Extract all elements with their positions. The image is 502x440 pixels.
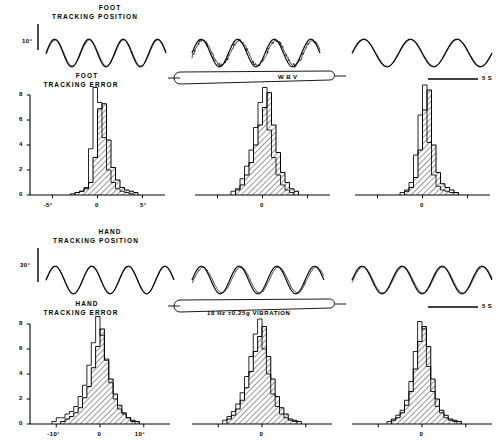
axis-tick-label: 0	[420, 202, 424, 208]
time-scale-label-bottom: 5 S	[482, 303, 492, 309]
hist-foot-error-during	[195, 88, 330, 199]
hist-foot-error-after	[355, 85, 490, 198]
axis-tick-label: 2	[19, 166, 23, 172]
plot-hand-position-before	[46, 266, 174, 294]
hand-tracking-position-after-response-trace	[352, 267, 492, 294]
plot-foot-position-before	[46, 39, 166, 67]
hand-position-scale-label: 30°	[20, 262, 31, 268]
axis-tick-label: 0	[19, 420, 23, 426]
axis-tick-label: 0	[98, 431, 102, 437]
foot-tracking-position-before-response-trace	[46, 39, 166, 66]
wbv-duration-bar	[168, 71, 346, 84]
foot-tracking-position-after-response-trace	[352, 39, 492, 66]
wbv-bar-label: W B V	[278, 74, 297, 80]
axis-tick-label: 0	[260, 202, 264, 208]
plot-foot-position-after	[352, 39, 492, 67]
plot-foot-position-during	[192, 39, 320, 67]
time-scale-label-top: 5 S	[482, 75, 492, 81]
hand-tracking-position-during-response-trace	[192, 267, 324, 294]
hand-error-title-line2: TRACKING ERROR	[6, 309, 156, 317]
axis-tick-label: 0	[420, 431, 424, 437]
foot-error-title-line1: FOOT	[32, 72, 142, 80]
axis-tick-label: 2	[19, 395, 23, 401]
hist-foot-error-before	[27, 88, 165, 199]
axis-tick-label: 5°	[140, 202, 147, 208]
axis-tick-label: 0	[95, 202, 99, 208]
axis-tick-label: -5°	[44, 202, 53, 208]
plot-hand-position-after	[352, 266, 492, 294]
axis-tick-label: 4	[19, 370, 23, 376]
hand-position-title-line1: HAND	[50, 228, 170, 236]
hand-tracking-position-before-target-trace	[46, 266, 174, 294]
hand-position-title-line2: TRACKING POSITION	[16, 237, 176, 245]
axis-tick-label: 6	[19, 116, 23, 122]
hist-hand-error-after	[352, 322, 492, 428]
axis-tick-label: 6	[19, 345, 23, 351]
axis-tick-label: 0	[260, 431, 264, 437]
hand-tracking-position-during-target-trace	[192, 266, 324, 294]
hand-tracking-position-before-response-trace	[46, 266, 174, 293]
hand-error-title-line1: HAND	[32, 300, 142, 308]
axis-tick-label: 0	[19, 191, 23, 197]
plot-hand-position-during	[192, 266, 324, 294]
figure-canvas	[0, 0, 502, 440]
foot-tracking-position-during-response-trace	[192, 40, 320, 68]
hist-hand-error-before	[27, 317, 170, 428]
hist-hand-error-during	[192, 319, 332, 427]
vibration-bar-label: 18 Hz ±0.25g VIBRATION	[207, 310, 290, 316]
foot-error-title-line2: TRACKING ERROR	[6, 81, 156, 89]
axis-tick-label: 10°	[135, 431, 145, 437]
axis-tick-label: -10°	[47, 431, 60, 437]
axis-tick-label: 4	[19, 141, 23, 147]
foot-tracking-position-during-target-trace	[192, 39, 320, 67]
tracking-performance-figure: FOOT TRACKING POSITION 10°	[0, 0, 502, 440]
axis-tick-label: 8	[19, 91, 23, 97]
axis-tick-label: 8	[19, 320, 23, 326]
